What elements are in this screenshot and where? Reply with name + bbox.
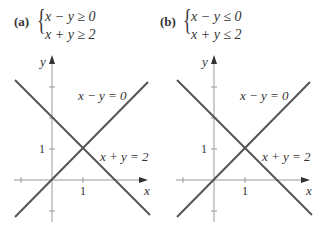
y-tick-1: 1	[201, 142, 207, 156]
line-label-2: x + y = 2	[99, 149, 149, 164]
x-axis-label: x	[305, 183, 312, 198]
y-axis-label: y	[38, 54, 46, 69]
x-tick-1: 1	[80, 184, 86, 198]
panel-a: (a) { x − y ≥ 0 x + y ≥ 2 y x 1 1 x − y …	[0, 0, 166, 235]
graph-a: y x 1 1 x − y = 0 x + y = 2	[0, 0, 166, 235]
x-axis-label: x	[143, 183, 150, 198]
panel-b: (b) { x − y ≤ 0 x + y ≤ 2 y x 1 1 x − y …	[166, 0, 332, 235]
graph-b: y x 1 1 x − y = 0 x + y = 2	[166, 0, 332, 235]
line-label-2: x + y = 2	[261, 149, 311, 164]
line-label-1: x − y = 0	[239, 88, 289, 103]
y-axis-label: y	[200, 54, 208, 69]
x-tick-1: 1	[242, 184, 248, 198]
y-tick-1: 1	[39, 142, 45, 156]
line-label-1: x − y = 0	[77, 88, 127, 103]
